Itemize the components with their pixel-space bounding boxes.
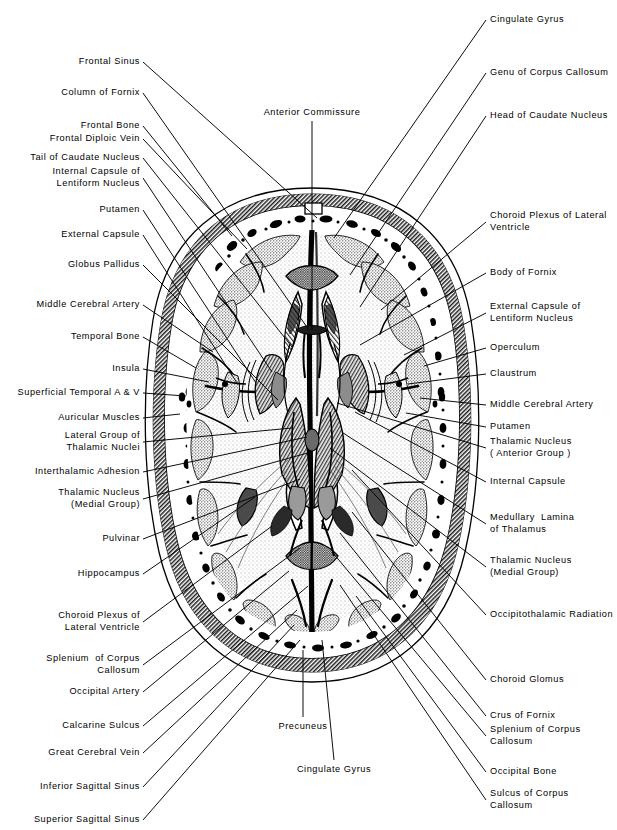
label-inferior-sagittal-sinus: Inferior Sagittal Sinus xyxy=(40,781,140,793)
label-line: Operculum xyxy=(490,342,540,354)
label-interthalamic-adhesion: Interthalamic Adhesion xyxy=(35,466,140,478)
label-choroid-plexus-of-lateral-ventricle: Choroid Plexus ofLateral Ventricle xyxy=(58,610,140,633)
label-line: Temporal Bone xyxy=(71,331,140,343)
label-thalamic-nucleus-medial-group: Thalamic Nucleus(Medial Group) xyxy=(58,487,140,510)
label-line: Insula xyxy=(112,363,140,375)
label-line: Crus of Fornix xyxy=(490,710,555,722)
label-frontal-diploic-vein: Frontal Diploic Vein xyxy=(50,133,140,145)
label-occipitothalamic-radiation: Occipitothalamic Radiation xyxy=(490,609,613,621)
label-line: Lentiform Nucleus xyxy=(490,313,581,325)
label-putamen: Putamen xyxy=(99,204,140,216)
label-tail-of-caudate-nucleus: Tail of Caudate Nucleus xyxy=(30,152,140,164)
label-line: Thalamic Nucleus xyxy=(490,555,572,567)
label-hippocampus: Hippocampus xyxy=(78,568,140,580)
label-external-capsule-of-lentiform-nucleus: External Capsule ofLentiform Nucleus xyxy=(490,301,581,324)
label-auricular-muscles: Auricular Muscles xyxy=(58,412,140,424)
label-line: Inferior Sagittal Sinus xyxy=(40,781,140,793)
label-line: Frontal Diploic Vein xyxy=(50,133,140,145)
figure-canvas: Frontal SinusColumn of FornixFrontal Bon… xyxy=(0,0,617,830)
label-line: Interthalamic Adhesion xyxy=(35,466,140,478)
superior-sagittal-sinus xyxy=(305,203,322,214)
label-line: Claustrum xyxy=(490,368,537,380)
label-line: Occipital Artery xyxy=(69,686,140,698)
label-line: Putamen xyxy=(99,204,140,216)
label-insula: Insula xyxy=(112,363,140,375)
label-line: Pulvinar xyxy=(102,533,140,545)
label-internal-capsule: Internal Capsule xyxy=(490,476,566,488)
label-operculum: Operculum xyxy=(490,342,540,354)
label-line: Callosum xyxy=(490,736,581,748)
label-line: Great Cerebral Vein xyxy=(48,747,140,759)
label-superior-sagittal-sinus: Superior Sagittal Sinus xyxy=(34,814,140,826)
label-line: Thalamic Nucleus xyxy=(58,487,140,499)
label-sulcus-of-corpus-callosum: Sulcus of CorpusCallosum xyxy=(490,788,569,811)
label-middle-cerebral-artery: Middle Cerebral Artery xyxy=(37,299,141,311)
label-line: Callosum xyxy=(490,800,569,812)
label-putamen: Putamen xyxy=(490,421,531,433)
label-line: Auricular Muscles xyxy=(58,412,140,424)
label-line: Splenium of Corpus xyxy=(46,653,140,665)
label-body-of-fornix: Body of Fornix xyxy=(490,267,557,279)
label-line: (Medial Group) xyxy=(490,567,572,579)
label-line: of Thalamus xyxy=(490,524,574,536)
label-line: Hippocampus xyxy=(78,568,140,580)
label-line: Choroid Plexus of Lateral xyxy=(490,210,607,222)
label-line: Putamen xyxy=(490,421,531,433)
label-precuneus: Precuneus xyxy=(0,721,606,733)
label-line: Frontal Sinus xyxy=(79,56,140,68)
label-thalamic-nucleus-medial-group: Thalamic Nucleus(Medial Group) xyxy=(490,555,572,578)
label-line: Choroid Plexus of xyxy=(58,610,140,622)
label-line: External Capsule xyxy=(61,229,140,241)
label-line: Tail of Caudate Nucleus xyxy=(30,152,140,164)
label-frontal-bone: Frontal Bone xyxy=(81,120,140,132)
label-line: Genu of Corpus Callosum xyxy=(490,67,608,79)
label-line: Internal Capsule xyxy=(490,476,566,488)
label-line: ( Anterior Group ) xyxy=(490,448,572,460)
label-line: Thalamic Nuclei xyxy=(65,442,140,454)
label-line: Cingulate Gyrus xyxy=(0,764,617,776)
brain-parenchyma xyxy=(180,220,440,640)
label-medullary-lamina-of-thalamus: Medullary Laminaof Thalamus xyxy=(490,512,574,535)
label-line: Precuneus xyxy=(0,721,606,733)
label-great-cerebral-vein: Great Cerebral Vein xyxy=(48,747,140,759)
label-line: Sulcus of Corpus xyxy=(490,788,569,800)
label-line: Lentiform Nucleus xyxy=(52,178,140,190)
label-occipital-artery: Occipital Artery xyxy=(69,686,140,698)
label-line: Lateral Group of xyxy=(65,430,140,442)
label-column-of-fornix: Column of Fornix xyxy=(61,87,140,99)
label-line: Callosum xyxy=(46,665,140,677)
label-line: Cingulate Gyrus xyxy=(490,14,564,26)
label-line: Internal Capsule of xyxy=(52,166,140,178)
label-line: Medullary Lamina xyxy=(490,512,574,524)
label-line: Globus Pallidus xyxy=(68,259,140,271)
label-cingulate-gyrus: Cingulate Gyrus xyxy=(490,14,564,26)
label-middle-cerebral-artery: Middle Cerebral Artery xyxy=(490,399,594,411)
label-external-capsule: External Capsule xyxy=(61,229,140,241)
label-genu-of-corpus-callosum: Genu of Corpus Callosum xyxy=(490,67,608,79)
label-line: Superior Sagittal Sinus xyxy=(34,814,140,826)
label-choroid-glomus: Choroid Glomus xyxy=(490,674,564,686)
label-line: Anterior Commissure xyxy=(0,107,617,119)
label-anterior-commissure: Anterior Commissure xyxy=(0,107,617,119)
label-claustrum: Claustrum xyxy=(490,368,537,380)
label-superficial-temporal-a-v: Superficial Temporal A & V xyxy=(18,387,140,399)
leader-frontal-sinus xyxy=(143,62,317,218)
label-cingulate-gyrus: Cingulate Gyrus xyxy=(0,764,617,776)
label-line: Middle Cerebral Artery xyxy=(37,299,141,311)
label-crus-of-fornix: Crus of Fornix xyxy=(490,710,555,722)
label-thalamic-nucleus-anterior-group: Thalamic Nucleus( Anterior Group ) xyxy=(490,436,572,459)
label-line: External Capsule of xyxy=(490,301,581,313)
label-frontal-sinus: Frontal Sinus xyxy=(79,56,140,68)
label-line: (Medial Group) xyxy=(58,499,140,511)
label-line: Thalamic Nucleus xyxy=(490,436,572,448)
interthalamic-adhesion xyxy=(305,429,319,451)
label-line: Middle Cerebral Artery xyxy=(490,399,594,411)
label-internal-capsule-of-lentiform-nucleus: Internal Capsule ofLentiform Nucleus xyxy=(52,166,140,189)
label-splenium-of-corpus-callosum: Splenium of CorpusCallosum xyxy=(46,653,140,676)
label-line: Lateral Ventricle xyxy=(58,622,140,634)
label-line: Choroid Glomus xyxy=(490,674,564,686)
leader-cingulate-gyrus xyxy=(334,20,486,238)
label-line: Body of Fornix xyxy=(490,267,557,279)
label-line: Ventricle xyxy=(490,222,607,234)
label-line: Occipitothalamic Radiation xyxy=(490,609,613,621)
